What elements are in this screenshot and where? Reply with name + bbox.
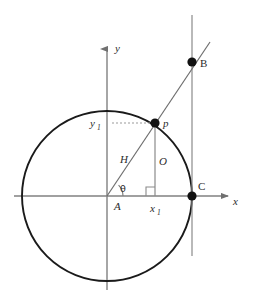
label-axis-x: x (232, 195, 238, 207)
label-x-coordinate-subscript: 1 (157, 208, 161, 217)
label-x-coordinate-base: x (149, 202, 155, 214)
label-point-c: C (198, 180, 205, 192)
trigonometry-diagram-figure: y x θ A B C p H O x 1 y 1 (0, 0, 253, 302)
label-angle-theta: θ (120, 183, 126, 194)
label-axis-y: y (114, 42, 120, 54)
label-vertex-a: A (113, 200, 121, 212)
label-y-coordinate-subscript: 1 (97, 123, 101, 132)
label-y-coordinate-base: y (89, 117, 95, 129)
point-p-marker[interactable] (150, 118, 159, 127)
label-point-b: B (200, 57, 207, 69)
diagram-canvas: y x θ A B C p H O x 1 y 1 (0, 0, 253, 302)
label-hypotenuse-h: H (119, 153, 129, 165)
right-angle-marker (146, 187, 155, 196)
label-x-coordinate: x 1 (149, 202, 161, 217)
label-point-p: p (162, 117, 169, 129)
label-opposite-o: O (159, 155, 167, 167)
point-b-marker[interactable] (187, 57, 196, 66)
point-c-marker[interactable] (187, 191, 196, 200)
axes-group (14, 49, 228, 290)
label-y-coordinate: y 1 (89, 117, 101, 132)
